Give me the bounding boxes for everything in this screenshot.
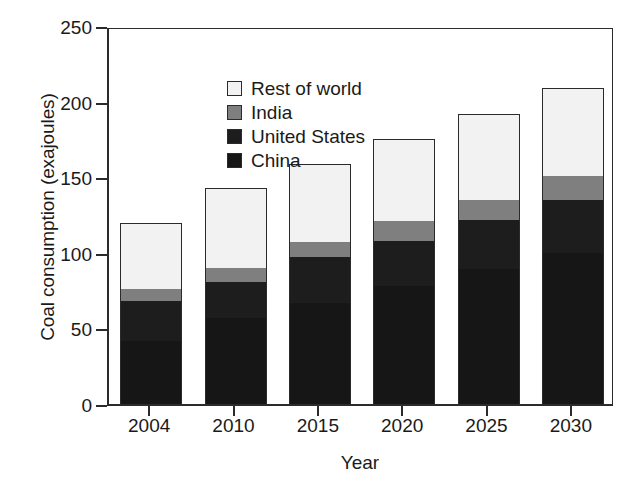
legend-item: United States: [227, 124, 457, 148]
legend-item-label: India: [251, 103, 292, 122]
legend-swatch-icon: [227, 105, 242, 120]
bar-segment-united-states: [205, 282, 267, 318]
y-axis-tick: [96, 254, 107, 256]
bar-segment-united-states: [458, 220, 520, 270]
bar-segment-india: [120, 289, 182, 301]
y-axis-tick: [96, 405, 107, 407]
y-axis-tick-label: 150: [4, 169, 92, 188]
x-axis-title: Year: [107, 452, 613, 474]
x-axis-tick-label: 2015: [273, 415, 363, 437]
legend-item: China: [227, 148, 457, 172]
x-axis-tick-label: 2030: [526, 415, 616, 437]
y-axis-tick-label: 250: [4, 18, 92, 37]
x-axis-tick-label: 2020: [357, 415, 447, 437]
y-axis-tick: [96, 27, 107, 29]
y-axis-tick: [96, 329, 107, 331]
y-axis-tick: [96, 103, 107, 105]
legend-item-label: China: [251, 151, 301, 170]
bar-2030: [542, 88, 604, 404]
bar-segment-india: [205, 268, 267, 282]
legend-item: India: [227, 100, 457, 124]
y-axis-tick-label: 200: [4, 94, 92, 113]
bar-segment-china: [205, 318, 267, 404]
plot-area: Rest of worldIndiaUnited StatesChina: [107, 28, 613, 406]
bar-segment-india: [458, 200, 520, 220]
bar-2015: [289, 164, 351, 404]
legend-swatch-icon: [227, 81, 242, 96]
y-axis-labels: 050100150200250: [0, 0, 92, 496]
bar-segment-united-states: [120, 301, 182, 340]
bar-segment-india: [542, 176, 604, 200]
x-axis-tick-label: 2004: [104, 415, 194, 437]
legend-swatch-icon: [227, 153, 242, 168]
bar-segment-united-states: [289, 257, 351, 302]
y-axis-tick-label: 50: [4, 320, 92, 339]
bar-segment-india: [289, 242, 351, 257]
bar-segment-united-states: [542, 200, 604, 253]
bar-2004: [120, 223, 182, 404]
bar-segment-rest-of-world: [542, 88, 604, 176]
legend-item-label: Rest of world: [251, 79, 362, 98]
bar-segment-rest-of-world: [205, 188, 267, 268]
legend-swatch-icon: [227, 129, 242, 144]
chart-legend: Rest of worldIndiaUnited StatesChina: [227, 76, 457, 172]
bar-segment-india: [373, 221, 435, 241]
y-axis-tick-label: 0: [4, 396, 92, 415]
legend-item: Rest of world: [227, 76, 457, 100]
bar-segment-china: [289, 303, 351, 404]
bar-segment-rest-of-world: [458, 114, 520, 200]
bar-segment-china: [373, 286, 435, 404]
bar-segment-rest-of-world: [289, 164, 351, 243]
x-axis-tick-label: 2010: [189, 415, 279, 437]
bar-segment-china: [120, 341, 182, 405]
bar-segment-rest-of-world: [120, 223, 182, 290]
x-axis-tick-label: 2025: [442, 415, 532, 437]
bar-2020: [373, 139, 435, 404]
bar-segment-united-states: [373, 241, 435, 286]
y-axis-tick: [96, 178, 107, 180]
bar-2025: [458, 114, 520, 404]
bar-segment-china: [458, 269, 520, 404]
bar-segment-china: [542, 253, 604, 404]
legend-item-label: United States: [251, 127, 365, 146]
y-axis-tick-label: 100: [4, 245, 92, 264]
coal-consumption-stacked-bar-chart: Coal consumption (exajoules) 05010015020…: [0, 0, 639, 496]
bar-2010: [205, 188, 267, 404]
